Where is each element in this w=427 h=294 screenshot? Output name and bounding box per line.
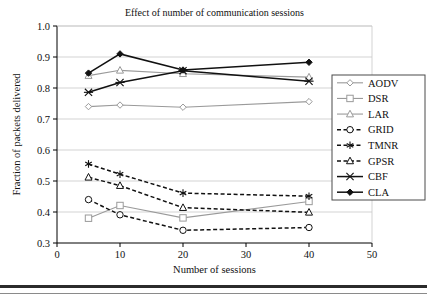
y-tick-label: 1.0 xyxy=(37,21,50,32)
x-tick-label: 40 xyxy=(304,249,315,260)
marker-circle xyxy=(306,224,312,230)
marker-diamond-open xyxy=(180,104,186,110)
y-tick-label: 0.8 xyxy=(37,83,50,94)
marker-square xyxy=(347,95,353,101)
marker-circle xyxy=(85,196,91,202)
y-tick-label: 0.6 xyxy=(37,145,50,156)
legend-label-cbf: CBF xyxy=(368,171,388,182)
chart-title: Effect of number of communication sessio… xyxy=(125,7,304,18)
x-tick-label: 0 xyxy=(54,249,59,260)
series-aodv xyxy=(85,98,312,110)
y-tick-label: 0.4 xyxy=(37,207,51,218)
y-tick-label: 0.7 xyxy=(37,114,50,125)
x-tick-label: 30 xyxy=(241,249,252,260)
marker-diamond-filled xyxy=(306,59,312,65)
legend-label-cla: CLA xyxy=(368,187,389,198)
legend-label-tmnr: TMNR xyxy=(368,140,398,151)
marker-diamond-open xyxy=(85,103,91,109)
marker-square xyxy=(117,202,123,208)
footer-rule xyxy=(0,285,427,288)
marker-triangle xyxy=(180,204,187,211)
marker-square xyxy=(85,215,91,221)
chart-figure: 0.30.40.50.60.70.80.91.001020304050Effec… xyxy=(0,0,427,294)
x-tick-label: 20 xyxy=(178,249,189,260)
legend: AODVDSRLARGRIDTMNRGPSRCBFCLA xyxy=(332,75,425,200)
legend-label-lar: LAR xyxy=(368,109,389,120)
legend-label-dsr: DSR xyxy=(368,93,388,104)
x-axis-ticks: 01020304050 xyxy=(54,243,377,260)
marker-triangle xyxy=(117,67,124,74)
line-chart: 0.30.40.50.60.70.80.91.001020304050Effec… xyxy=(0,0,427,294)
gridlines xyxy=(57,26,372,212)
x-tick-label: 10 xyxy=(115,249,126,260)
series-tmnr xyxy=(85,160,312,200)
series-group xyxy=(84,51,314,234)
legend-label-gpsr: GPSR xyxy=(368,156,394,167)
axes xyxy=(57,26,372,243)
y-axis-ticks: 0.30.40.50.60.70.80.91.0 xyxy=(37,21,57,249)
x-tick-label: 50 xyxy=(367,249,378,260)
marker-square xyxy=(180,215,186,221)
y-tick-label: 0.3 xyxy=(37,238,50,249)
marker-circle xyxy=(347,126,353,132)
y-axis-title: Fraction of packets delivered xyxy=(11,73,22,196)
series-line-tmnr xyxy=(89,164,310,196)
marker-diamond-open xyxy=(117,102,123,108)
marker-diamond-open xyxy=(306,98,312,104)
marker-triangle xyxy=(85,173,92,180)
y-tick-label: 0.5 xyxy=(37,176,50,187)
marker-circle xyxy=(180,227,186,233)
y-tick-label: 0.9 xyxy=(37,52,50,63)
legend-label-grid: GRID xyxy=(368,124,394,135)
x-axis-title: Number of sessions xyxy=(173,264,256,275)
legend-label-aodv: AODV xyxy=(368,78,399,89)
marker-triangle xyxy=(117,182,124,189)
marker-circle xyxy=(117,212,123,218)
chart-page: 0.30.40.50.60.70.80.91.001020304050Effec… xyxy=(0,0,427,294)
